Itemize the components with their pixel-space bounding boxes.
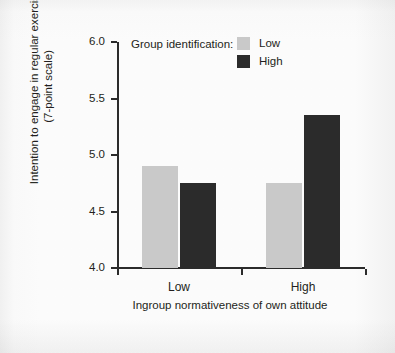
y-axis-tick-label-5.5: 5.5: [65, 93, 105, 105]
x-axis-tick-label-high: High: [263, 281, 343, 293]
bar-chart-figure: Group identification: Low High 4.04.55.0…: [0, 0, 395, 353]
y-axis-tick-label-4.5: 4.5: [65, 206, 105, 218]
y-axis-tick-label-4.0: 4.0: [65, 262, 105, 274]
y-axis-tick-label-6.0: 6.0: [65, 36, 105, 48]
y-axis-title-line2: (7-point scale): [41, 0, 55, 186]
x-axis-tick-0: [117, 269, 119, 275]
y-axis-tick-label-5.0: 5.0: [65, 149, 105, 161]
x-axis-tick-2: [365, 269, 367, 275]
x-axis-tick-1: [241, 269, 243, 275]
x-axis-title: Ingroup normativeness of own attitude: [70, 299, 390, 311]
bar-low-high: [180, 183, 216, 268]
x-axis-tick-label-low: Low: [139, 281, 219, 293]
y-axis-title: Intention to engage in regular exercise …: [27, 0, 56, 186]
bar-low-low: [142, 166, 178, 268]
bar-high-high: [304, 115, 340, 268]
bar-high-low: [266, 183, 302, 268]
y-axis-title-line1: Intention to engage in regular exercise: [27, 0, 41, 186]
plot-area: [117, 42, 365, 268]
